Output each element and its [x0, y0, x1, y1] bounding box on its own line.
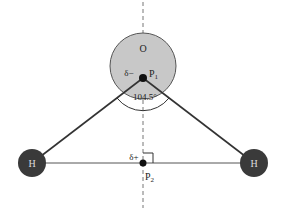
bond-right	[143, 78, 254, 163]
water-molecule-diagram: O H H δ− P1 104.5° δ+ P2	[0, 0, 285, 210]
p1-charge-label: δ−	[124, 68, 133, 78]
bond-left	[32, 78, 143, 163]
p2-charge-label: δ+	[129, 152, 138, 162]
point-p2	[140, 160, 147, 167]
p2-label: P2	[145, 171, 155, 184]
hydrogen-label-left: H	[28, 158, 35, 169]
point-p1	[139, 74, 147, 82]
hydrogen-label-right: H	[250, 158, 257, 169]
angle-label: 104.5°	[133, 92, 157, 102]
oxygen-label: O	[139, 43, 146, 54]
